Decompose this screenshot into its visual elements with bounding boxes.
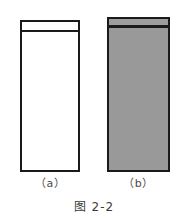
panel-a-rectangle xyxy=(20,20,80,172)
figure-caption: 图 2-2 xyxy=(0,197,188,214)
panel-b-top-band xyxy=(109,19,168,28)
panel-b-body xyxy=(109,31,168,170)
figure-container: （a） （b） 图 2-2 xyxy=(0,0,188,219)
panel-b-label: （b） xyxy=(107,176,170,192)
panel-a-label: （a） xyxy=(20,176,80,192)
panel-b-rectangle xyxy=(107,17,170,172)
panel-a-body xyxy=(22,34,78,170)
panel-a-top-band xyxy=(22,22,78,32)
